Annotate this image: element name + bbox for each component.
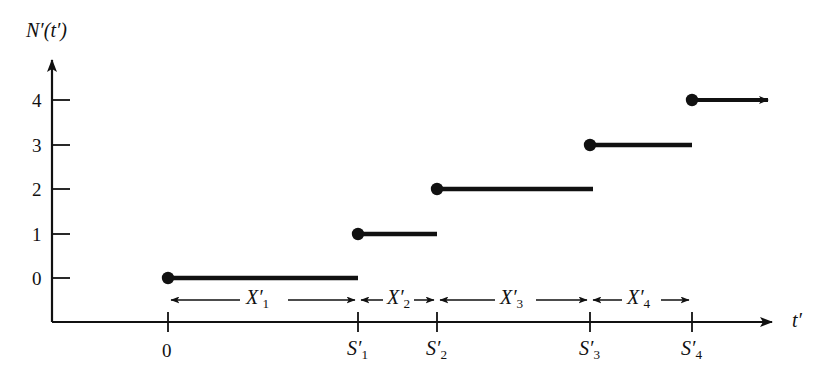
x-tick-label-0: 0 <box>162 341 172 360</box>
x-axis-title: t′ <box>792 310 802 330</box>
step-dot-level-0 <box>162 272 174 284</box>
x-tick-label-s1: S′1 <box>347 338 368 361</box>
interval-label-x2: X′2 <box>387 287 410 310</box>
interval-label-x4-sub: 4 <box>644 296 651 311</box>
y-tick-label-3: 3 <box>32 136 42 155</box>
y-axis-title-fn: N <box>26 19 39 41</box>
x-tick-label-s2: S′2 <box>426 338 447 361</box>
step-dot-level-3 <box>584 139 596 151</box>
step-plot-figure: N′(t′) t′ 0 1 2 3 4 0 S′1 S′2 S′3 S′4 X′… <box>0 0 822 375</box>
interval-label-x4: X′4 <box>627 287 650 310</box>
interval-label-x2-base: X <box>387 286 399 308</box>
interval-label-x3-sub: 3 <box>517 296 524 311</box>
plot-canvas <box>0 0 822 375</box>
x-tick-label-s2-sub: 2 <box>440 347 447 362</box>
step-dot-level-4 <box>686 94 698 106</box>
x-tick-label-s4-base: S <box>681 337 691 359</box>
step-dot-level-2 <box>431 183 443 195</box>
interval-label-x4-base: X <box>627 286 639 308</box>
step-segments <box>162 94 768 284</box>
x-tick-label-s3: S′3 <box>579 338 600 361</box>
interval-label-x1-base: X <box>246 286 258 308</box>
y-axis-ticks <box>52 100 70 278</box>
y-tick-label-0: 0 <box>32 269 42 288</box>
y-axis-title-close: ) <box>60 19 67 41</box>
interval-label-x3: X′3 <box>500 287 523 310</box>
interval-label-x1-sub: 1 <box>263 296 270 311</box>
interval-label-x1: X′1 <box>246 287 269 310</box>
y-tick-label-2: 2 <box>32 180 42 199</box>
interval-label-x2-sub: 2 <box>404 296 411 311</box>
x-tick-label-s3-base: S <box>579 337 589 359</box>
x-tick-label-s1-base: S <box>347 337 357 359</box>
interval-label-x3-base: X <box>500 286 512 308</box>
x-tick-label-s2-base: S <box>426 337 436 359</box>
y-axis-title: N′(t′) <box>26 20 67 40</box>
x-tick-label-s3-sub: 3 <box>593 347 600 362</box>
x-tick-label-s4-sub: 4 <box>695 347 702 362</box>
axis-lines <box>52 60 772 322</box>
y-tick-label-4: 4 <box>32 91 42 110</box>
x-tick-label-s1-sub: 1 <box>361 347 368 362</box>
x-tick-label-s4: S′4 <box>681 338 702 361</box>
x-axis-title-prime: ′ <box>798 309 802 331</box>
step-dot-level-1 <box>352 228 364 240</box>
y-tick-label-1: 1 <box>32 225 42 244</box>
